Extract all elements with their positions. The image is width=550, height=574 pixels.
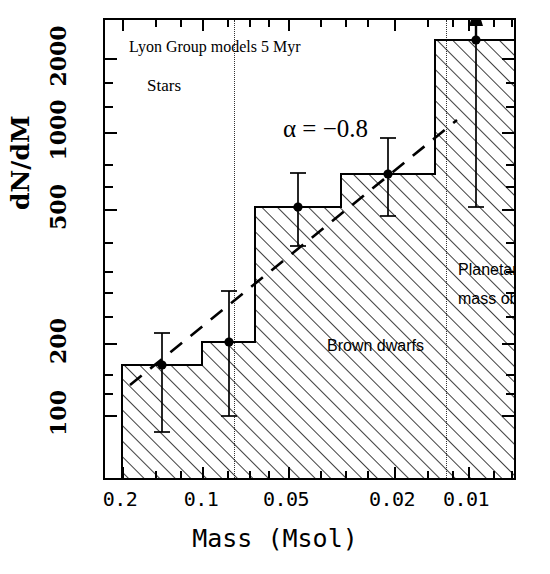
x-tick-top-minor <box>452 20 454 27</box>
x-tick-top-0.2 <box>122 20 124 31</box>
x-tick-label-0.1: 0.1 <box>184 487 219 511</box>
x-tick-minor <box>268 471 270 478</box>
x-tick-top-minor <box>268 20 270 27</box>
y-tick-right-minor <box>506 82 514 84</box>
x-tick-minor <box>155 471 157 478</box>
x-tick-minor <box>180 471 182 478</box>
brown-dwarfs-region-label: Brown dwarfs <box>327 337 424 355</box>
x-tick-minor <box>367 471 369 478</box>
x-tick-top-minor <box>227 20 229 27</box>
x-tick-top-0.05 <box>288 20 290 31</box>
y-tick-1000 <box>105 132 117 134</box>
planetary-mass-objects-region-label: Planetary mass objects <box>458 255 516 313</box>
y-tick-right-minor <box>506 106 514 108</box>
y-tick-label-1000: 1000 <box>45 99 71 160</box>
x-tick-0.1 <box>202 467 204 478</box>
y-tick-minor <box>105 374 113 376</box>
x-tick-minor <box>345 471 347 478</box>
stars-region-label: Stars <box>147 76 181 96</box>
y-tick-500 <box>105 209 117 211</box>
x-tick-minor <box>427 471 429 478</box>
x-tick-top-minor <box>155 20 157 27</box>
upper-limit-arrow-icon <box>469 20 483 26</box>
x-tick-minor <box>452 471 454 478</box>
x-tick-top-minor <box>249 20 251 27</box>
x-tick-0.05 <box>288 467 290 478</box>
y-tick-minor <box>105 316 113 318</box>
y-tick-right-2000 <box>502 58 514 60</box>
y-tick-right-minor <box>506 393 514 395</box>
x-tick-top-0.02 <box>394 20 396 31</box>
y-tick-right-minor <box>506 374 514 376</box>
x-tick-top-0.01 <box>468 20 470 31</box>
plot-area: Lyon Group models 5 Myr Stars α = −0.8 B… <box>103 18 516 480</box>
x-tick-top-minor <box>320 20 322 27</box>
y-tick-right-minor <box>506 271 514 273</box>
y-tick-minor <box>105 393 113 395</box>
x-tick-0.01 <box>468 467 470 478</box>
y-tick-right-minor <box>506 316 514 318</box>
slope-alpha-label: α = −0.8 <box>283 115 368 143</box>
x-tick-top-minor <box>493 20 495 27</box>
x-tick-minor <box>249 471 251 478</box>
y-tick-label-500: 500 <box>45 184 71 230</box>
y-tick-label-200: 200 <box>45 318 71 364</box>
x-tick-label-0.2: 0.2 <box>103 487 138 511</box>
y-tick-right-100 <box>502 415 514 417</box>
y-tick-minor <box>105 292 113 294</box>
model-caption: Lyon Group models 5 Myr <box>129 38 301 56</box>
y-tick-label-100: 100 <box>45 390 71 436</box>
y-tick-right-minor <box>506 242 514 244</box>
y-tick-200 <box>105 343 117 345</box>
figure-canvas: dN/dM 100 200 500 1000 2000 <box>0 0 550 574</box>
pmo-label-line-2: mass objects <box>458 284 516 313</box>
y-tick-2000 <box>105 58 117 60</box>
x-tick-label-0.01: 0.01 <box>443 487 489 511</box>
histogram-fill <box>122 40 516 480</box>
pmo-label-line-1: Planetary <box>458 255 516 284</box>
x-tick-0.02 <box>394 467 396 478</box>
y-tick-right-200 <box>502 343 514 345</box>
y-tick-minor <box>105 271 113 273</box>
x-tick-top-minor <box>511 20 513 27</box>
x-tick-minor <box>227 471 229 478</box>
x-tick-top-minor <box>367 20 369 27</box>
y-tick-minor <box>105 186 113 188</box>
y-tick-right-500 <box>502 209 514 211</box>
x-tick-0.2 <box>122 467 124 478</box>
y-tick-minor <box>105 82 113 84</box>
x-tick-minor <box>320 471 322 478</box>
x-tick-top-minor <box>427 20 429 27</box>
y-tick-label-2000: 2000 <box>45 25 71 86</box>
y-tick-minor <box>105 106 113 108</box>
x-tick-minor <box>511 471 513 478</box>
y-axis-title: dN/dM <box>6 180 35 210</box>
x-tick-top-minor <box>345 20 347 27</box>
y-tick-100 <box>105 415 117 417</box>
x-tick-label-0.05: 0.05 <box>263 487 309 511</box>
y-tick-right-minor <box>506 292 514 294</box>
y-tick-minor <box>105 164 113 166</box>
x-tick-top-minor <box>180 20 182 27</box>
x-tick-label-0.02: 0.02 <box>369 487 415 511</box>
y-tick-minor <box>105 242 113 244</box>
y-tick-right-1000 <box>502 132 514 134</box>
y-tick-right-minor <box>506 164 514 166</box>
x-axis-title: Mass (Msol) <box>0 524 550 553</box>
x-tick-top-0.1 <box>202 20 204 31</box>
x-tick-minor <box>493 471 495 478</box>
y-tick-right-minor <box>506 186 514 188</box>
